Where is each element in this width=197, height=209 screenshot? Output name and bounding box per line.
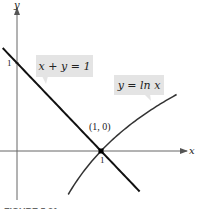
callout-label-curve: y = ln x <box>117 79 162 92</box>
callout-pointer <box>144 94 151 101</box>
y-tick-label: 1 <box>7 58 12 68</box>
figure-caption: FIGURE 5.21 <box>4 206 58 209</box>
point-label: (1, 0) <box>89 121 111 133</box>
callout-pointer <box>42 76 48 84</box>
intersection-point <box>99 149 104 154</box>
callout-label-line: x + y = 1 <box>39 60 91 73</box>
callout-curve: y = ln x <box>114 75 164 101</box>
x-axis-label: x <box>189 145 195 156</box>
curve-y-equals-ln-x <box>68 95 176 195</box>
callout-line: x + y = 1 <box>36 55 93 84</box>
figure-canvas: x y 1 1 (1, 0) x + y = 1 y = ln x FIGURE… <box>0 0 197 209</box>
x-tick-label: 1 <box>100 155 105 165</box>
y-axis-label: y <box>13 0 20 10</box>
